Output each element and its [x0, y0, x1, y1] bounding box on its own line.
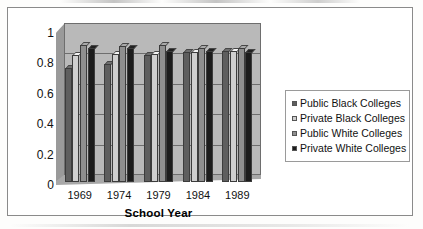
bar-face — [245, 52, 252, 181]
chart-plot-area: 00.20.40.60.81 19691974197919841989 Scho… — [28, 23, 273, 208]
bar — [112, 54, 119, 182]
bar — [144, 55, 151, 181]
legend-item: Private Black Colleges — [292, 111, 405, 126]
chart-legend: Public Black CollegesPrivate Black Colle… — [285, 90, 410, 162]
bar — [119, 46, 126, 181]
x-tick-label: 1989 — [225, 189, 249, 201]
y-tick-label: 1 — [47, 27, 54, 39]
legend-swatch-icon — [292, 116, 297, 121]
bar-face — [238, 48, 245, 182]
bar-group — [183, 33, 213, 185]
y-tick-label: 0.6 — [37, 88, 54, 100]
bar-face — [222, 51, 229, 182]
legend-label: Private Black Colleges — [300, 113, 405, 124]
bar-group — [222, 33, 252, 185]
bar — [183, 52, 190, 181]
bar-face — [144, 55, 151, 181]
bar — [151, 54, 158, 182]
bar-group — [144, 33, 174, 185]
scan-artifact-bottom — [10, 224, 410, 227]
bar-face — [198, 48, 205, 182]
bar-face — [119, 46, 126, 181]
legend-label: Public White Colleges — [300, 128, 402, 139]
bar — [245, 52, 252, 181]
x-tick-label: 1969 — [67, 189, 91, 201]
scan-artifact-top — [60, 0, 360, 3]
y-tick-label: 0.2 — [37, 149, 54, 161]
bar — [104, 64, 111, 181]
legend-item: Private White Colleges — [292, 141, 405, 156]
bar — [127, 48, 134, 182]
bar-face — [206, 51, 213, 182]
y-axis-tick-labels: 00.20.40.60.81 — [28, 23, 54, 183]
bar-face — [183, 52, 190, 181]
y-tick-label: 0.4 — [37, 118, 54, 130]
bars-layer — [56, 23, 261, 185]
plot-3d-box — [56, 23, 261, 185]
x-tick-label: 1979 — [146, 189, 170, 201]
bar-face — [88, 48, 95, 182]
bar — [206, 51, 213, 182]
bar-face — [159, 45, 166, 182]
x-axis-title: School Year — [56, 207, 261, 219]
bar — [191, 52, 198, 181]
bar — [238, 48, 245, 182]
legend-swatch-icon — [292, 131, 297, 136]
bar — [230, 51, 237, 182]
bar — [72, 55, 79, 181]
bar-group — [65, 33, 95, 185]
bar — [198, 48, 205, 182]
y-tick-label: 0.8 — [37, 57, 54, 69]
legend-swatch-icon — [292, 146, 297, 151]
figure-frame: 00.20.40.60.81 19691974197919841989 Scho… — [7, 7, 413, 216]
bar — [166, 51, 173, 182]
bar — [88, 48, 95, 182]
legend-swatch-icon — [292, 101, 297, 106]
legend-item: Public Black Colleges — [292, 96, 405, 111]
bar-face — [191, 52, 198, 181]
bar-group — [104, 33, 134, 185]
bar-face — [230, 51, 237, 182]
bar-face — [80, 45, 87, 182]
x-axis-tick-labels: 19691974197919841989 — [56, 189, 261, 205]
bar-face — [112, 54, 119, 182]
bar-face — [127, 48, 134, 182]
x-tick-label: 1974 — [107, 189, 131, 201]
bar — [222, 51, 229, 182]
y-tick-label: 0 — [47, 179, 54, 191]
x-tick-label: 1984 — [186, 189, 210, 201]
legend-item: Public White Colleges — [292, 126, 405, 141]
bar-face — [166, 51, 173, 182]
bar-face — [104, 64, 111, 181]
bar — [159, 45, 166, 182]
legend-label: Public Black Colleges — [300, 98, 401, 109]
bar — [80, 45, 87, 182]
bar — [65, 68, 72, 182]
bar-face — [72, 55, 79, 181]
legend-label: Private White Colleges — [300, 143, 406, 154]
bar-face — [65, 68, 72, 182]
bar-face — [151, 54, 158, 182]
